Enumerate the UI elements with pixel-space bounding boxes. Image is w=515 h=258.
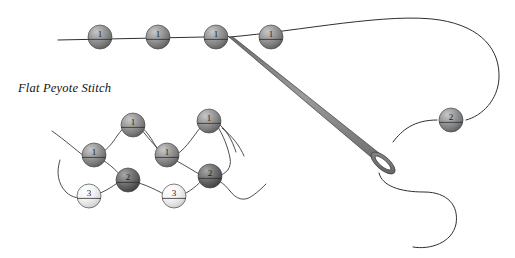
- needle-shaft: [229, 37, 389, 168]
- bead-sphere: [197, 109, 221, 133]
- bead-2: 2: [116, 168, 140, 192]
- bead-sphere: [77, 184, 101, 208]
- bead-sphere: [439, 108, 463, 132]
- bead-3: 3: [162, 184, 186, 208]
- beading-illustration: 1111 11112233 2 Flat Peyote Stitch: [0, 0, 515, 258]
- bead-sphere: [204, 25, 228, 49]
- top-row-thread: [58, 37, 229, 41]
- bead-sphere: [121, 113, 145, 137]
- bead-2: 2: [439, 108, 463, 132]
- bead-sphere: [146, 25, 170, 49]
- weave-thread-segment: [52, 131, 84, 156]
- sewing-needle: [229, 37, 399, 178]
- bead-sphere: [162, 184, 186, 208]
- figure-caption: Flat Peyote Stitch: [17, 81, 111, 95]
- needle-eye: [367, 148, 398, 177]
- right-bead-tail-thread: [393, 120, 437, 142]
- bead-3: 3: [77, 184, 101, 208]
- right-section-bead-group: 2: [439, 108, 463, 132]
- cluster-bead-group: 11112233: [77, 109, 222, 208]
- bead-1: 1: [121, 113, 145, 137]
- bead-1: 1: [197, 109, 221, 133]
- bead-1: 1: [88, 25, 112, 49]
- bead-2: 2: [198, 164, 222, 188]
- bead-1: 1: [82, 143, 106, 167]
- weave-thread-segment: [230, 184, 266, 199]
- bead-1: 1: [204, 25, 228, 49]
- bead-1: 1: [259, 25, 283, 49]
- bead-sphere: [82, 143, 106, 167]
- bead-1: 1: [146, 25, 170, 49]
- bead-sphere: [155, 143, 179, 167]
- lower-tail-thread: [379, 173, 456, 248]
- bead-sphere: [259, 25, 283, 49]
- bead-1: 1: [155, 143, 179, 167]
- beading-diagram: 1111 11112233 2 Flat Peyote Stitch: [0, 0, 515, 258]
- bead-sphere: [88, 25, 112, 49]
- bead-sphere: [198, 164, 222, 188]
- bead-sphere: [116, 168, 140, 192]
